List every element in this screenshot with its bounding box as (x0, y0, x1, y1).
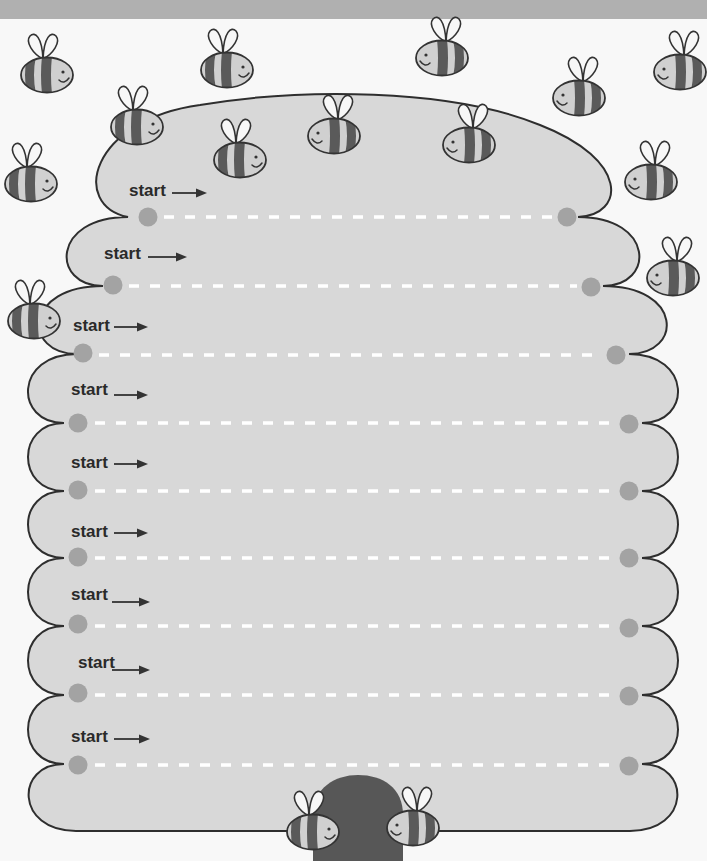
start-label: start (129, 181, 166, 200)
start-dot (74, 344, 93, 363)
start-label: start (71, 585, 108, 604)
start-dot (139, 208, 158, 227)
bee-icon (416, 17, 468, 77)
start-dot (69, 414, 88, 433)
bee-icon (647, 237, 699, 297)
end-dot (620, 549, 639, 568)
bee-icon (8, 280, 60, 340)
end-dot (607, 346, 626, 365)
beehive-outline (28, 94, 678, 831)
start-dot (69, 548, 88, 567)
end-dot (620, 482, 639, 501)
bee-icon (201, 29, 253, 89)
start-label: start (73, 316, 110, 335)
start-label: start (78, 653, 115, 672)
end-dot (620, 757, 639, 776)
beehive-worksheet: start start start (0, 0, 707, 861)
start-label: start (71, 522, 108, 541)
start-label: start (71, 453, 108, 472)
start-label: start (104, 244, 141, 263)
start-label: start (71, 380, 108, 399)
start-dot (69, 615, 88, 634)
bee-icon (553, 57, 605, 117)
end-dot (620, 687, 639, 706)
bee-icon (5, 143, 57, 203)
bee-icon (654, 31, 706, 91)
bee-icon (111, 86, 163, 146)
start-label: start (71, 727, 108, 746)
end-dot (558, 208, 577, 227)
bee-icon (21, 34, 73, 94)
end-dot (582, 278, 601, 297)
bee-icon (625, 141, 677, 201)
start-dot (69, 684, 88, 703)
start-dot (69, 756, 88, 775)
end-dot (620, 619, 639, 638)
start-dot (104, 276, 123, 295)
worksheet-page: start start start (0, 0, 707, 861)
start-dot (69, 481, 88, 500)
end-dot (620, 415, 639, 434)
